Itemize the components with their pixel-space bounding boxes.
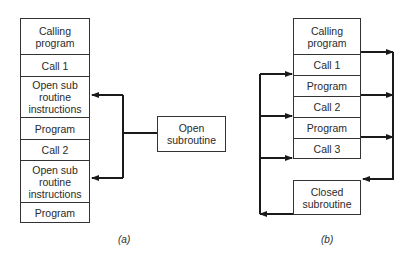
connector-arrows <box>0 0 411 260</box>
caption-a: (a) <box>118 234 130 245</box>
caption-b: (b) <box>321 234 333 245</box>
arrow-to-closed-subroutine <box>363 52 393 179</box>
